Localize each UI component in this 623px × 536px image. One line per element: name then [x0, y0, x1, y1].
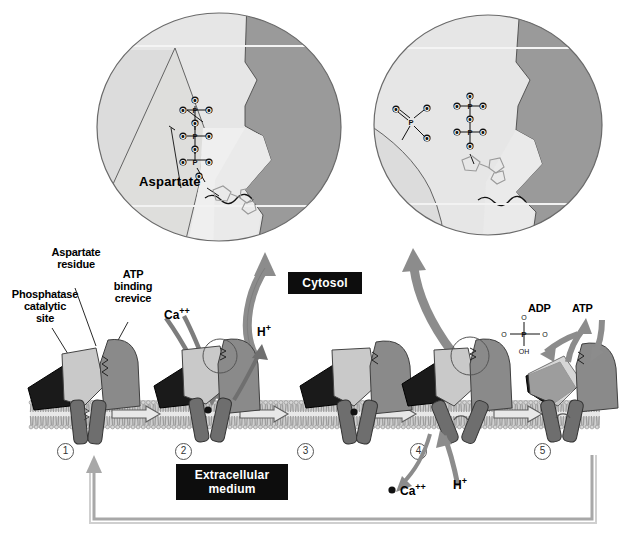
- pump-state-2: [148, 302, 298, 438]
- svg-text:O: O: [206, 132, 212, 141]
- svg-text:O: O: [180, 132, 186, 141]
- svg-text:O: O: [454, 128, 460, 137]
- calcium-charge: ++: [179, 306, 190, 316]
- left-inset-circle: O O O P O O O P O O O P O: [95, 10, 345, 250]
- svg-text:O: O: [467, 92, 473, 101]
- aspartate-residue-label: Aspartate residue: [34, 246, 118, 270]
- inset-aspartate-label: Aspartate: [139, 174, 201, 189]
- proton-charge: +: [266, 323, 271, 333]
- svg-text:P: P: [467, 128, 472, 137]
- svg-text:O: O: [192, 119, 198, 128]
- svg-text:P: P: [408, 118, 413, 127]
- svg-text:O: O: [192, 96, 198, 105]
- phosphate-center-P: P: [521, 330, 527, 339]
- svg-text:O: O: [206, 106, 212, 115]
- proton-label-step2: H+: [257, 323, 271, 339]
- svg-text:O: O: [480, 102, 486, 111]
- pump-state-1: [22, 328, 142, 438]
- svg-text:O: O: [467, 142, 473, 151]
- svg-text:O: O: [424, 134, 430, 143]
- phosphate-right-O: O: [542, 331, 548, 338]
- step-number-1[interactable]: 1: [57, 443, 74, 460]
- right-inset-circle: O O O P O O O P O: [370, 14, 610, 244]
- svg-text:P: P: [192, 106, 197, 115]
- cytosol-label-box: Cytosol: [288, 272, 362, 294]
- svg-text:O: O: [180, 158, 186, 167]
- svg-text:O: O: [454, 102, 460, 111]
- calcium-symbol: Ca: [164, 308, 179, 322]
- svg-text:P: P: [467, 102, 472, 111]
- atp-label: ATP: [572, 302, 593, 314]
- phosphate-bottom-OH: OH: [519, 348, 530, 355]
- svg-text:P: P: [192, 132, 197, 141]
- proton-symbol: H: [257, 325, 266, 339]
- inorganic-phosphate-diagram: O O O P OH: [496, 308, 556, 358]
- figure-canvas: O O O P O O O P O O O P O: [0, 0, 623, 536]
- svg-text:O: O: [393, 105, 399, 114]
- phosphate-left-O: O: [501, 331, 507, 338]
- phosphate-top-O: O: [521, 314, 527, 321]
- svg-text:O: O: [480, 128, 486, 137]
- aspartate-residue-line-1: Aspartate: [34, 246, 118, 258]
- svg-text:O: O: [424, 104, 430, 113]
- cycle-return-arrow: [80, 455, 610, 531]
- calcium-label-step2: Ca++: [164, 306, 190, 322]
- atp-crevice-line-1: ATP: [98, 268, 168, 280]
- svg-text:P: P: [192, 158, 197, 167]
- svg-text:O: O: [467, 115, 473, 124]
- svg-text:O: O: [192, 145, 198, 154]
- svg-text:O: O: [206, 158, 212, 167]
- svg-text:O: O: [180, 106, 186, 115]
